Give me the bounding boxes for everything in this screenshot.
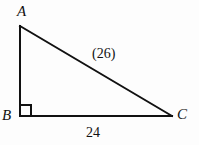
vertex-label-a: A [17,4,26,19]
triangle-drawing [0,0,199,145]
side-label-hypotenuse: (26) [92,47,115,61]
side-label-base: 24 [86,126,100,140]
right-angle-marker [20,105,31,116]
vertex-label-b: B [2,108,11,123]
vertex-label-c: C [177,107,187,122]
geometry-figure: A B C (26) 24 [0,0,199,145]
segment-ac-hypotenuse [20,26,172,116]
